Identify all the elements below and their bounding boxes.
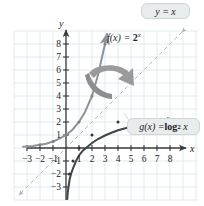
svg-text:7: 7: [155, 154, 160, 164]
graph-canvas: y x −3 −2 −1 1 2 3 4 5 6 7 8 8 7 6 5 4 3…: [0, 0, 204, 206]
svg-text:5: 5: [129, 154, 134, 164]
svg-text:6: 6: [142, 154, 147, 164]
y-tick-labels: 8 7 6 5 4 3 2 1 −1 −2 −3: [51, 39, 61, 192]
math-figure: y x −3 −2 −1 1 2 3 4 5 6 7 8 8 7 6 5 4 3…: [0, 0, 204, 206]
svg-text:7: 7: [56, 52, 61, 62]
label-f-prefix: f(x) =: [107, 32, 133, 43]
x-axis-name: x: [189, 143, 195, 154]
svg-text:−2: −2: [51, 169, 61, 179]
svg-text:2: 2: [90, 154, 95, 164]
svg-text:−3: −3: [22, 154, 32, 164]
grid-lines: [14, 31, 198, 200]
svg-text:3: 3: [56, 104, 61, 114]
svg-text:4: 4: [56, 91, 61, 101]
svg-text:4: 4: [116, 154, 121, 164]
svg-text:8: 8: [56, 39, 61, 49]
svg-text:1: 1: [77, 154, 82, 164]
svg-text:−2: −2: [35, 154, 45, 164]
label-function-g: g(x) = log2 x: [127, 118, 200, 135]
svg-text:3: 3: [103, 154, 108, 164]
label-g-prefix: g(x) =: [139, 121, 164, 132]
svg-text:5: 5: [56, 78, 61, 88]
label-identity-line: y = x: [141, 3, 190, 19]
label-g-argument: x: [183, 121, 187, 132]
x-tick-labels: −3 −2 −1 1 2 3 4 5 6 7 8: [22, 154, 173, 164]
label-identity-text: y = x: [155, 6, 176, 17]
label-function-f: f(x) = 2x: [107, 31, 141, 43]
svg-text:6: 6: [56, 65, 61, 75]
label-f-exponent: x: [138, 31, 141, 39]
svg-text:2: 2: [56, 117, 61, 127]
y-axis-name: y: [58, 18, 64, 29]
svg-text:1: 1: [56, 130, 61, 140]
svg-text:8: 8: [168, 154, 173, 164]
label-g-base: log: [165, 121, 178, 132]
svg-text:−3: −3: [51, 182, 61, 192]
svg-text:−1: −1: [51, 156, 61, 166]
identity-line-y-equals-x: [19, 32, 182, 195]
